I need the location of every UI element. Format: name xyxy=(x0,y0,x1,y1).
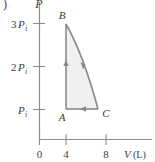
svg-text:P: P xyxy=(17,18,25,30)
y-axis-label: P xyxy=(34,0,43,11)
point-label-a: A xyxy=(58,111,66,123)
cycle-shaded-region xyxy=(66,24,98,109)
x-axis-label: V xyxy=(124,148,132,160)
x-tick-label-8: 8 xyxy=(103,148,109,160)
svg-text:P: P xyxy=(17,61,25,73)
x-tick-label-0: 0 xyxy=(37,148,43,160)
pv-diagram: P ) 3 P i 2 P i P i 0 4 8 V (L) B A C xyxy=(0,0,155,162)
point-label-c: C xyxy=(102,107,110,119)
svg-text:P: P xyxy=(17,104,25,116)
y-tick-label-Pi: P i xyxy=(17,104,27,119)
svg-text:i: i xyxy=(25,67,27,76)
svg-text:i: i xyxy=(25,110,27,119)
point-label-b: B xyxy=(59,9,66,21)
svg-text:3: 3 xyxy=(11,18,17,30)
y-tick-label-2Pi: 2 P i xyxy=(11,61,27,76)
svg-text:i: i xyxy=(25,24,27,33)
x-axis-units: (L) xyxy=(133,149,146,161)
y-tick-label-3Pi: 3 P i xyxy=(11,18,27,33)
svg-text:2: 2 xyxy=(11,61,17,73)
x-tick-label-4: 4 xyxy=(63,148,69,160)
figure-partial-label: ) xyxy=(3,0,7,11)
